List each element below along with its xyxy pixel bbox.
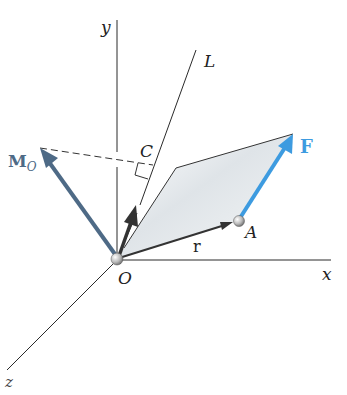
right-angle-marker [135,163,148,179]
diagram-canvas: y x z L C O A r F MO [0,0,347,395]
point-C-label: C [140,141,153,161]
moment-label: MO [8,151,37,174]
point-A [234,216,245,227]
line-L-label: L [203,51,215,71]
force-label: F [300,136,313,157]
z-axis-label: z [4,373,13,391]
moment-vector-arrowhead [40,148,58,168]
moment-vector-shaft [49,162,117,257]
moment-label-main: M [8,151,27,171]
position-vector-label: r [193,237,201,256]
origin-label: O [118,268,132,288]
moment-label-subscript: O [27,160,37,174]
z-axis [7,260,117,370]
origin-point [111,253,123,265]
position-vector-arrowhead [220,222,233,230]
x-axis-label: x [322,264,332,284]
projected-moment-arrowhead [124,205,138,227]
y-axis-label: y [100,17,111,37]
projection-dashed-line [40,148,153,165]
point-A-label: A [243,222,257,242]
